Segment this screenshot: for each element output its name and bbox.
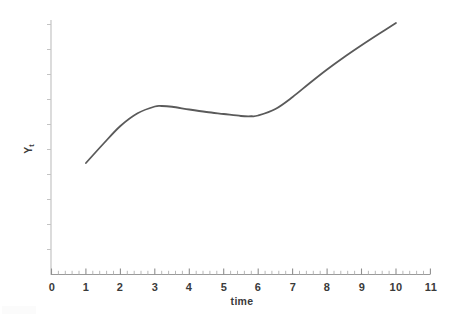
xtick-label-7: 7 — [283, 281, 303, 293]
xtick-label-1: 1 — [76, 281, 96, 293]
y-axis-title: Yt — [22, 129, 34, 169]
xtick-label-3: 3 — [145, 281, 165, 293]
chart-figure: 0 1 2 3 4 5 6 7 8 9 10 11 time Yt — [0, 0, 454, 320]
x-axis-major-ticks — [52, 269, 431, 275]
line-chart-plot — [0, 0, 454, 320]
xtick-label-11: 11 — [421, 281, 441, 293]
xtick-label-0: 0 — [42, 281, 62, 293]
xtick-label-9: 9 — [352, 281, 372, 293]
series-line-yt — [86, 23, 396, 163]
xtick-label-2: 2 — [110, 281, 130, 293]
xtick-label-10: 10 — [386, 281, 406, 293]
xtick-label-5: 5 — [214, 281, 234, 293]
scan-artifact — [2, 306, 36, 314]
xtick-label-8: 8 — [317, 281, 337, 293]
y-axis-title-subscript: t — [27, 144, 36, 147]
x-axis-title: time — [212, 295, 272, 307]
xtick-label-6: 6 — [248, 281, 268, 293]
y-axis-title-main: Y — [22, 147, 34, 154]
xtick-label-4: 4 — [179, 281, 199, 293]
